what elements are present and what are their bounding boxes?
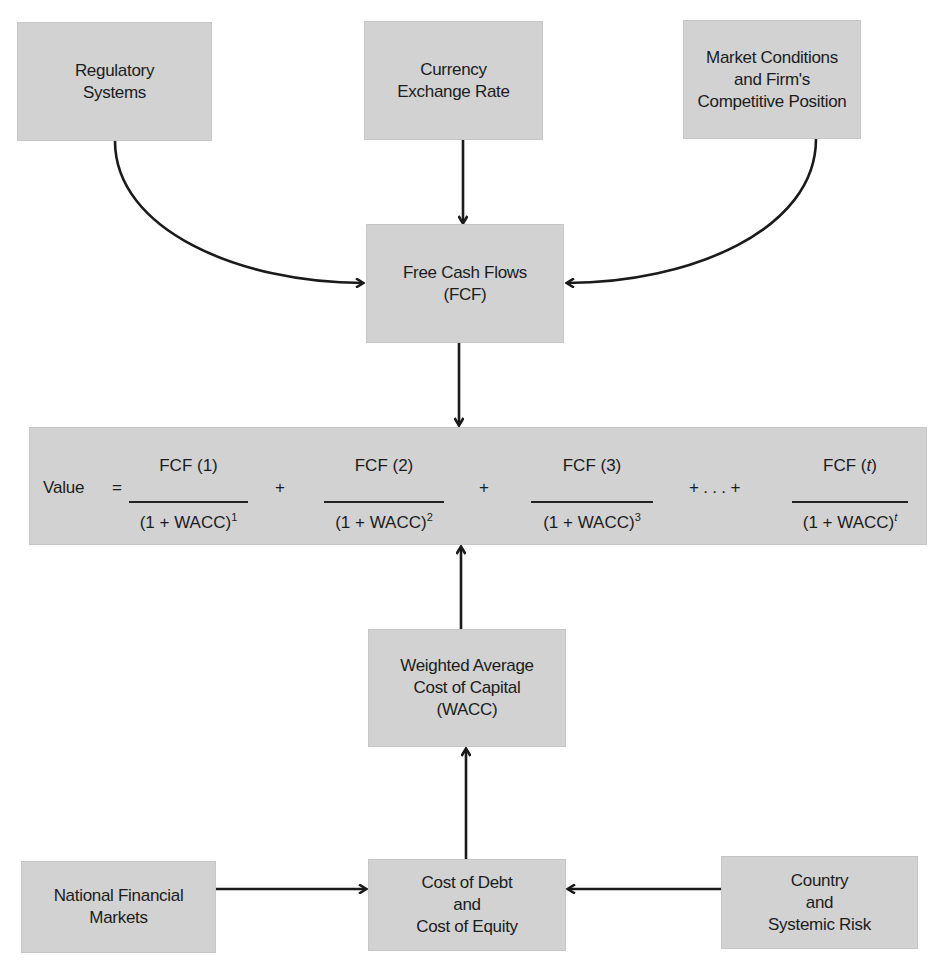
box-line: and Firm's [734,69,810,91]
box-line: National Financial [54,885,184,907]
plus-sign: + [479,477,489,499]
box-line: Markets [89,907,147,929]
denominator: (1 + WACC)t [792,512,908,534]
box-line: Currency [420,59,487,81]
denominator: (1 + WACC)3 [531,512,653,534]
box-line: Country [791,870,848,892]
fraction-bar [531,501,653,503]
fraction-bar [129,501,248,503]
box-line: Weighted Average [400,655,534,677]
fraction-bar [324,501,444,503]
fraction-term-3: FCF (3) (1 + WACC)3 [531,441,653,531]
box-line: Market Conditions [706,47,838,69]
box-line: Cost of Debt [422,872,513,894]
box-line: Regulatory [75,60,154,82]
arrow-market-to-fcf [567,139,816,283]
ellipsis-sum: + . . . + [689,477,740,499]
box-line: Free Cash Flows [403,262,527,284]
numerator: FCF (3) [531,455,653,477]
box-line: Cost of Equity [416,916,518,938]
national-financial-markets-box: National Financial Markets [21,861,216,953]
equals-sign: = [112,477,122,499]
denominator: (1 + WACC)2 [324,512,444,534]
wacc-box: Weighted Average Cost of Capital (WACC) [368,629,566,747]
cost-of-debt-equity-box: Cost of Debt and Cost of Equity [368,859,566,951]
fraction-term-1: FCF (1) (1 + WACC)1 [129,441,248,531]
currency-exchange-rate-box: Currency Exchange Rate [364,21,543,140]
box-line: Cost of Capital [414,677,521,699]
box-line: (WACC) [437,699,498,721]
regulatory-systems-box: Regulatory Systems [17,22,212,141]
box-line: Systems [83,82,146,104]
box-line: Exchange Rate [397,81,509,103]
box-line: Competitive Position [698,91,847,113]
denominator: (1 + WACC)1 [129,512,248,534]
market-conditions-box: Market Conditions and Firm's Competitive… [683,20,861,139]
arrow-regulatory-to-fcf [115,141,363,283]
free-cash-flows-box: Free Cash Flows (FCF) [366,224,564,343]
box-line: (FCF) [444,284,487,306]
fraction-term-t: FCF (t) (1 + WACC)t [792,441,908,531]
numerator: FCF (t) [792,455,908,477]
fraction-term-2: FCF (2) (1 + WACC)2 [324,441,444,531]
box-line: Systemic Risk [768,914,871,936]
box-line: and [453,894,480,916]
fraction-bar [792,501,908,503]
box-line: and [806,892,833,914]
numerator: FCF (2) [324,455,444,477]
numerator: FCF (1) [129,455,248,477]
country-systemic-risk-box: Country and Systemic Risk [721,856,918,949]
value-formula-box: Value = FCF (1) (1 + WACC)1 + FCF (2) (1… [29,427,927,545]
value-label: Value [43,477,84,499]
plus-sign: + [275,477,285,499]
